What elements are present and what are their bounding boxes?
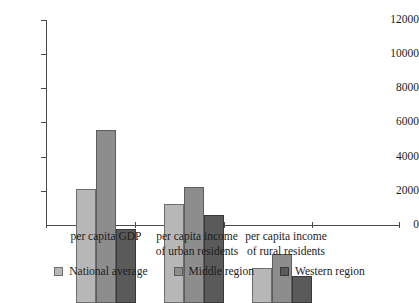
legend-swatch-middle-region-icon (174, 267, 183, 276)
x-tick-2 (224, 222, 225, 228)
legend-label-middle-region: Middle region (189, 266, 254, 278)
legend-label-western-region: Western region (295, 266, 365, 278)
plot-area: 12000 10000 8000 6000 4000 2000 0 (0, 0, 419, 303)
legend-item-middle-region: Middle region (174, 266, 254, 278)
legend-label-national-average: National average (69, 266, 147, 278)
y-tick-label-4000: 4000 (381, 151, 419, 163)
bar-rural-income-western-region (292, 276, 312, 303)
y-tick-2000 (41, 191, 47, 192)
legend-item-national-average: National average (54, 266, 147, 278)
legend-swatch-national-average-icon (54, 267, 63, 276)
x-tick-3 (312, 222, 313, 228)
bar-rural-income-middle-region (272, 254, 292, 303)
y-tick-12000 (41, 20, 47, 21)
x-category-label-rural-income: per capita income of rural residents (228, 229, 344, 258)
legend-swatch-western-region-icon (280, 267, 289, 276)
y-tick-label-6000: 6000 (381, 116, 419, 128)
y-tick-label-2000: 2000 (381, 185, 419, 197)
legend-item-western-region: Western region (280, 266, 365, 278)
x-tick-0 (46, 222, 47, 228)
y-tick-label-10000: 10000 (381, 48, 419, 60)
y-tick-6000 (41, 122, 47, 123)
y-tick-label-8000: 8000 (381, 82, 419, 94)
chart-legend: National average Middle region Western r… (0, 266, 419, 278)
bar-chart: 12000 10000 8000 6000 4000 2000 0 (0, 0, 419, 303)
y-tick-8000 (41, 88, 47, 89)
y-tick-label-12000: 12000 (381, 14, 419, 26)
y-tick-10000 (41, 54, 47, 55)
y-tick-4000 (41, 157, 47, 158)
bar-per-capita-gdp-national-average (76, 189, 96, 303)
x-tick-4 (399, 222, 400, 228)
